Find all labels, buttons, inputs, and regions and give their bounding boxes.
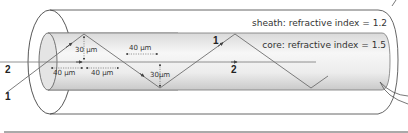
- optical-fibre-diagram: 30 µm 40 µm 40 µm 40 µm 30µm 2 1 1 2 she…: [0, 0, 408, 133]
- core-label: core: refractive index = 1.5: [262, 40, 386, 50]
- ray-1-label-left: 1: [5, 91, 11, 102]
- pointer-line-upper: [392, 0, 396, 6]
- sheath-label: sheath: refractive index = 1.2: [252, 18, 387, 28]
- dim-vertical-1: 30 µm: [75, 46, 98, 54]
- ray-2-label-right: 2: [231, 64, 237, 75]
- ray-1-label-right: 1: [213, 35, 219, 46]
- dim-horizontal-3: 40 µm: [129, 44, 152, 52]
- dim-horizontal-2: 40 µm: [91, 69, 114, 77]
- dim-horizontal-1: 40 µm: [53, 69, 76, 77]
- ray-2-label-left: 2: [5, 64, 11, 75]
- dim-vertical-2: 30µm: [150, 71, 170, 79]
